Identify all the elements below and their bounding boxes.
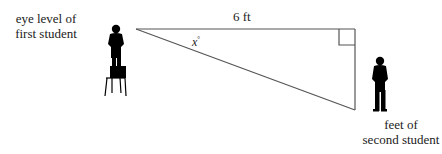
hypotenuse <box>136 29 355 110</box>
right-angle-marker <box>339 29 355 45</box>
right-triangle <box>136 29 355 110</box>
first-student-figure-icon <box>105 25 126 96</box>
second-student-figure-icon <box>372 57 388 112</box>
chair-icon <box>110 66 126 78</box>
